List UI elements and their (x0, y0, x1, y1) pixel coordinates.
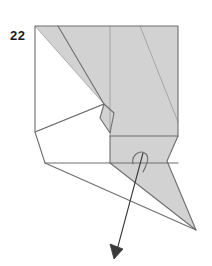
origami-diagram: 22 (0, 0, 212, 266)
paper-faces (35, 26, 196, 230)
step-number-label: 22 (10, 29, 25, 43)
fold-arrow-head (110, 244, 123, 259)
origami-figure-svg (0, 0, 212, 266)
